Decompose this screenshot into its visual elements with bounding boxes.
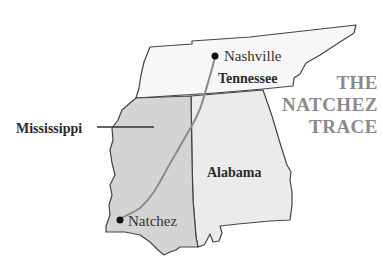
map-title-line-3: TRACE [309,116,378,137]
map-title-line-2: NATCHEZ [282,94,378,115]
natchez-marker-icon [117,217,124,224]
map-title-line-1: THE [336,72,378,93]
nashville-marker-icon [212,53,219,60]
city-label-nashville: Nashville [224,48,282,64]
state-label-tennessee: Tennessee [218,71,277,86]
state-mississippi [106,96,198,255]
state-label-alabama: Alabama [207,165,261,180]
state-label-mississippi: Mississippi [16,121,82,136]
natchez-trace-map: Nashville Natchez Tennessee Alabama Miss… [0,0,383,273]
city-label-natchez: Natchez [128,213,177,229]
